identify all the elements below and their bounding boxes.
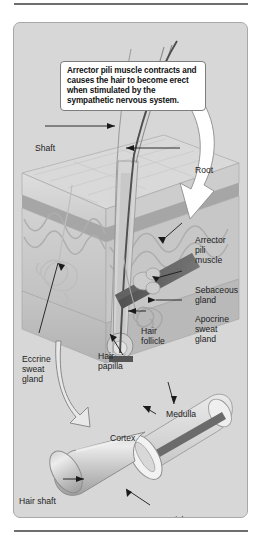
label-arrector-pili-muscle: Arrector pili muscle — [195, 235, 226, 266]
top-divider — [14, 3, 248, 5]
label-cortex: Cortex — [110, 433, 135, 443]
label-cuticle: Cuticle — [162, 515, 188, 518]
label-sebaceous-gland: Sebaceous gland — [195, 285, 238, 305]
bottom-divider — [14, 530, 248, 532]
label-apocrine-sweat-gland: Apocrine sweat gland — [195, 314, 229, 345]
label-root: Root — [195, 165, 213, 175]
label-hair-shaft: Hair shaft — [19, 496, 56, 506]
label-eccrine-sweat-gland: Eccrine sweat gland — [22, 354, 51, 385]
label-medulla: Medulla — [166, 409, 196, 419]
label-hair-follicle: Hair follicle — [141, 326, 165, 346]
arrector-pili-callout: Arrector pili muscle contracts and cause… — [60, 61, 206, 111]
figure-panel: Arrector pili muscle contracts and cause… — [13, 22, 248, 518]
label-shaft: Shaft — [35, 143, 55, 153]
label-hair-papilla: Hair papilla — [98, 351, 123, 371]
